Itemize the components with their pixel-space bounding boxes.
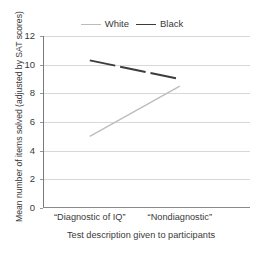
plot-area xyxy=(43,36,250,208)
y-tick-label: 8 xyxy=(30,88,35,98)
legend-entry-white: White xyxy=(81,19,129,29)
x-tick-label: “Diagnostic of IQ” xyxy=(54,212,125,223)
y-tick-mark xyxy=(40,65,43,66)
legend-entry-black: Black xyxy=(136,19,183,29)
legend-line-swatch-black-icon xyxy=(136,24,156,25)
y-tick-mark xyxy=(40,208,43,209)
y-tick-label: 4 xyxy=(30,146,35,156)
x-tick-label: “Nondiagnostic” xyxy=(148,212,212,223)
legend-label-black: Black xyxy=(160,19,183,29)
y-tick-mark xyxy=(40,36,43,37)
series-line-white xyxy=(90,86,180,136)
y-tick-mark xyxy=(40,93,43,94)
y-tick-label: 10 xyxy=(24,60,35,70)
y-tick-mark xyxy=(40,122,43,123)
y-tick-label: 6 xyxy=(30,117,35,127)
legend-label-white: White xyxy=(105,19,129,29)
y-tick-mark xyxy=(40,151,43,152)
legend-line-swatch-white-icon xyxy=(81,24,101,25)
y-tick-label: 0 xyxy=(30,203,35,213)
y-tick-label: 2 xyxy=(30,174,35,184)
y-axis-title: Mean number of items solved (adjusted by… xyxy=(14,12,24,222)
series-container xyxy=(43,36,250,208)
chart-legend: White Black xyxy=(0,16,264,32)
y-tick-label: 12 xyxy=(24,31,35,41)
series-line-black xyxy=(90,60,180,79)
y-tick-mark xyxy=(40,179,43,180)
line-chart: White Black Mean number of items solved … xyxy=(0,0,264,253)
x-axis-title: Test description given to participants xyxy=(0,230,264,241)
